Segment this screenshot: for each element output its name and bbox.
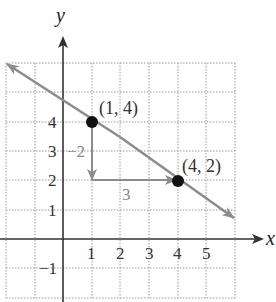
y-tick-minus-1: −1 xyxy=(39,259,57,278)
rise-label: −2 xyxy=(67,142,85,161)
y-tick-1: 1 xyxy=(48,201,57,220)
x-axis-label: x xyxy=(265,227,275,249)
point-1-4-label: (1, 4) xyxy=(99,98,138,119)
x-tick-1: 1 xyxy=(87,244,96,263)
point-4-2-label: (4, 2) xyxy=(182,156,221,177)
run-label: 3 xyxy=(122,185,131,204)
x-tick-4: 4 xyxy=(173,244,182,263)
x-tick-5: 5 xyxy=(202,244,211,263)
y-axis-label: y xyxy=(54,4,65,27)
x-tick-3: 3 xyxy=(145,244,154,263)
y-tick-2: 2 xyxy=(48,171,57,190)
x-tick-2: 2 xyxy=(116,244,125,263)
y-tick-3: 3 xyxy=(48,142,57,161)
coordinate-plane: x y 1 2 3 4 5 4 3 2 1 −1 −2 3 (1, 4) (4,… xyxy=(0,0,276,302)
y-tick-4: 4 xyxy=(48,113,57,132)
point-1-4 xyxy=(86,116,98,128)
point-4-2 xyxy=(172,175,184,187)
